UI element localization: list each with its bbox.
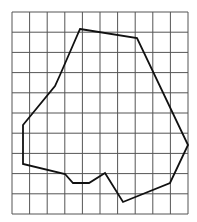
grid-lines — [12, 12, 188, 214]
grid-diagram — [0, 0, 197, 222]
irregular-polygon — [23, 29, 188, 202]
